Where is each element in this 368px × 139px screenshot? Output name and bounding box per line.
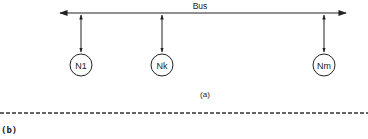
node-nk-label: Nk [157, 61, 168, 71]
node-n1: N1 [70, 15, 92, 76]
node-n1-label: N1 [75, 61, 87, 71]
part-a-label: (a) [200, 90, 210, 99]
bus-topology-diagram: Bus N1 Nk Nm (a) (b) [0, 0, 368, 139]
bus-label: Bus [193, 1, 208, 11]
node-nm-label: Nm [317, 61, 331, 71]
part-b-label: (b) [1, 125, 17, 135]
node-nk: Nk [151, 15, 173, 76]
node-nm: Nm [313, 15, 335, 76]
